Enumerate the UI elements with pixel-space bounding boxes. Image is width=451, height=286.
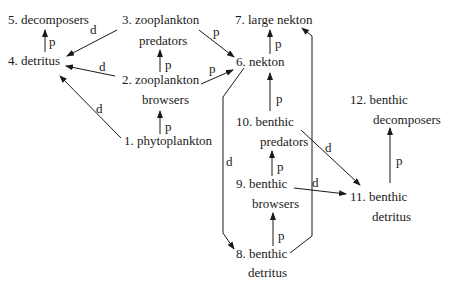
edge-10-to-6: p xyxy=(270,73,283,111)
edge-6-to-7: p xyxy=(270,30,282,54)
edge-2-to-6: p xyxy=(201,61,233,84)
node-10-benthic-predators: 10. benthic predators xyxy=(236,114,308,149)
node-label: 12. benthic xyxy=(350,92,408,107)
edge-3-to-6: p xyxy=(199,24,234,57)
svg-text:p: p xyxy=(165,119,172,134)
svg-text:d: d xyxy=(99,59,106,74)
svg-text:p: p xyxy=(277,159,284,174)
edge-9-to-11: d xyxy=(294,175,346,194)
node-7-large-nekton: 7. large nekton xyxy=(235,12,313,27)
edge-11-to-12: p xyxy=(390,128,403,183)
node-label: 4. detritus xyxy=(8,53,60,68)
node-label: 7. large nekton xyxy=(235,12,313,27)
node-label: detritus xyxy=(248,265,287,280)
node-12-benthic-decomposers: 12. benthic decomposers xyxy=(350,92,441,127)
node-2-zooplankton-browsers: 2. zooplankton browsers xyxy=(122,72,200,107)
svg-text:p: p xyxy=(278,228,285,243)
node-label: 10. benthic xyxy=(236,114,294,129)
node-label: 5. decomposers xyxy=(8,12,89,27)
node-label: 9. benthic xyxy=(236,176,287,191)
svg-text:p: p xyxy=(275,36,282,51)
node-label: detritus xyxy=(372,209,411,224)
svg-text:p: p xyxy=(396,153,403,168)
node-label: 8. benthic xyxy=(236,246,287,261)
node-11-benthic-detritus: 11. benthic detritus xyxy=(350,189,411,224)
svg-text:p: p xyxy=(49,34,56,49)
node-6-nekton: 6. nekton xyxy=(236,54,285,69)
node-3-zooplankton-predators: 3. zooplankton predators xyxy=(122,12,200,48)
node-label: 3. zooplankton xyxy=(122,12,200,27)
edge-3-to-4: d xyxy=(67,22,117,56)
node-label: 6. nekton xyxy=(236,54,285,69)
edge-1-to-4: d xyxy=(60,76,121,138)
svg-text:d: d xyxy=(90,22,97,37)
edge-6-to-8: d xyxy=(223,68,244,249)
node-label: 2. zooplankton xyxy=(122,72,200,87)
svg-text:p: p xyxy=(165,57,172,72)
node-label: 11. benthic xyxy=(350,189,408,204)
node-8-benthic-detritus: 8. benthic detritus xyxy=(236,246,287,280)
svg-text:p: p xyxy=(276,91,283,106)
edge-2-to-3: p xyxy=(160,50,172,72)
edge-2-to-4: d xyxy=(66,59,115,76)
edge-8-to-9: p xyxy=(273,213,285,246)
edge-9-to-10: p xyxy=(272,151,284,176)
svg-text:p: p xyxy=(209,61,216,76)
node-9-benthic-browsers: 9. benthic browsers xyxy=(236,176,299,211)
node-1-phytoplankton: 1. phytoplankton xyxy=(124,133,213,148)
svg-text:d: d xyxy=(312,175,319,190)
node-4-detritus: 4. detritus xyxy=(8,53,60,68)
node-5-decomposers: 5. decomposers xyxy=(8,12,89,27)
edge-10-to-11: d xyxy=(301,130,360,185)
node-label: decomposers xyxy=(373,112,441,127)
node-label: 1. phytoplankton xyxy=(124,133,213,148)
svg-text:p: p xyxy=(213,24,220,39)
node-label: predators xyxy=(260,134,308,149)
node-label: predators xyxy=(139,33,187,48)
svg-text:d: d xyxy=(226,154,233,169)
node-label: browsers xyxy=(142,92,189,107)
edge-1-to-2: p xyxy=(160,111,172,134)
edge-4-to-5: p xyxy=(45,30,56,52)
svg-text:d: d xyxy=(325,140,332,155)
node-label: browsers xyxy=(252,196,299,211)
svg-text:d: d xyxy=(96,101,103,116)
food-web-diagram: 5. decomposers 4. detritus 3. zooplankto… xyxy=(0,0,451,286)
